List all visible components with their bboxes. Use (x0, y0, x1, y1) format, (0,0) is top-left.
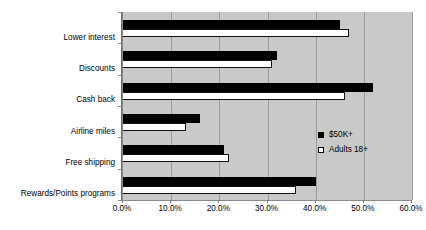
category-label: Cash back (0, 95, 115, 104)
category-tick (118, 200, 122, 201)
value-tick-label: 30.0% (255, 204, 278, 213)
category-label: Lower interest (0, 33, 115, 42)
value-tick (170, 200, 171, 203)
bar-series-b (123, 29, 349, 37)
bar-group (123, 75, 412, 106)
legend-label: Adults 18+ (329, 145, 368, 154)
category-axis: Lower interest Discounts Cash back Airli… (0, 12, 119, 200)
bar-series-b (123, 123, 186, 131)
bar-series-a (123, 114, 200, 123)
category-tick (118, 43, 122, 44)
category-tick (118, 137, 122, 138)
bar-group (123, 43, 412, 74)
category-label: Free shipping (0, 158, 115, 167)
bar-series-a (123, 145, 224, 154)
value-tick-label: 50.0% (351, 204, 374, 213)
legend-entry: Adults 18+ (318, 143, 394, 156)
value-tick (363, 200, 364, 203)
value-tick (267, 200, 268, 203)
value-tick (411, 200, 412, 203)
category-tick (118, 169, 122, 170)
category-label: Discounts (0, 64, 115, 73)
gridline (412, 12, 413, 200)
chart-legend: $50K+ Adults 18+ (318, 128, 394, 158)
value-tick-label: 60.0% (399, 204, 422, 213)
plot-area (122, 12, 412, 200)
category-tick (118, 12, 122, 13)
bar-series-a (123, 51, 277, 60)
category-tick (118, 75, 122, 76)
value-tick-label: 0.0% (113, 204, 132, 213)
category-label: Airline miles (0, 127, 115, 136)
bar-group (123, 12, 412, 43)
bar-series-a (123, 177, 316, 186)
value-tick-label: 10.0% (159, 204, 182, 213)
value-axis-labels: 0.0%10.0%20.0%30.0%40.0%50.0%60.0% (0, 204, 426, 220)
bar-series-b (123, 154, 229, 162)
bar-series-a (123, 83, 373, 92)
value-tick-label: 20.0% (207, 204, 230, 213)
category-label: Rewards/Points programs (0, 189, 115, 198)
legend-label: $50K+ (329, 130, 353, 139)
bar-series-a (123, 20, 340, 29)
value-tick (218, 200, 219, 203)
legend-swatch-icon (318, 147, 324, 153)
bar-series-b (123, 60, 272, 68)
legend-entry: $50K+ (318, 128, 394, 141)
value-tick (315, 200, 316, 203)
value-tick-label: 40.0% (303, 204, 326, 213)
bar-chart: Lower interest Discounts Cash back Airli… (0, 0, 426, 230)
bar-series-b (123, 92, 345, 100)
bar-group (123, 169, 412, 200)
value-tick (122, 200, 123, 203)
bar-series-b (123, 186, 296, 194)
legend-swatch-icon (318, 132, 324, 138)
category-tick (118, 106, 122, 107)
